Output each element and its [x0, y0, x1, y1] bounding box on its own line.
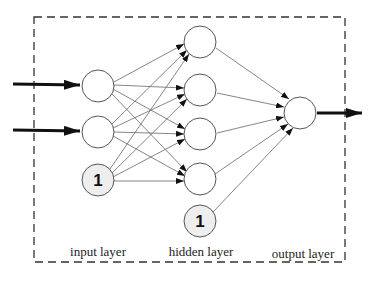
hidden-node-2	[184, 74, 216, 106]
input-arrow-1	[13, 84, 80, 85]
hidden-bias-label: 1	[195, 212, 204, 231]
hidden-node-4	[184, 163, 216, 195]
input-arrow-2	[13, 130, 80, 131]
input-node-2	[82, 116, 114, 148]
hidden-node-3	[184, 118, 216, 150]
input-bias-label: 1	[93, 171, 102, 190]
input-node-1	[82, 70, 114, 102]
input-layer-label: input layer	[70, 244, 127, 259]
input-hidden-connections	[110, 44, 189, 181]
output-layer-label: output layer	[272, 246, 335, 261]
hidden-node-1	[184, 26, 216, 58]
output-node	[284, 97, 316, 129]
neural-network-diagram: 1 1 input layer hidden layer output laye…	[0, 0, 378, 285]
hidden-layer-label: hidden layer	[169, 244, 234, 259]
hidden-output-connections	[213, 48, 293, 212]
